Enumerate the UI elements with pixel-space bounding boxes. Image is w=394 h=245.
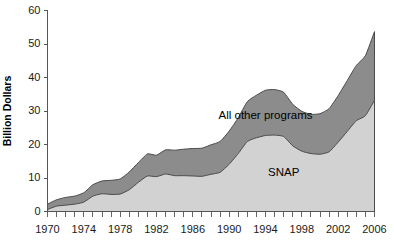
x-tick-label: 2002 xyxy=(326,223,350,235)
x-tick-label: 2006 xyxy=(362,223,386,235)
plot-areas xyxy=(48,32,375,212)
x-tick-label: 1998 xyxy=(290,223,314,235)
y-tick-label: 0 xyxy=(34,205,40,217)
x-tick-label: 1974 xyxy=(72,223,96,235)
y-tick-label: 10 xyxy=(28,171,40,183)
y-tick-label: 20 xyxy=(28,138,40,150)
x-tick-label: 1978 xyxy=(108,223,132,235)
series-label-all-other-programs: All other programs xyxy=(219,109,313,121)
y-tick-label: 40 xyxy=(28,71,40,83)
series-label-snap: SNAP xyxy=(268,166,300,178)
y-tick-label: 60 xyxy=(28,4,40,16)
y-axis-title: Billion Dollars xyxy=(1,76,13,147)
y-tick-label: 50 xyxy=(28,37,40,49)
x-tick-label: 1970 xyxy=(35,223,59,235)
stacked-area-chart: 0102030405060197019741978198219861990199… xyxy=(0,0,394,245)
x-tick-label: 1986 xyxy=(181,223,205,235)
chart-page: 0102030405060197019741978198219861990199… xyxy=(0,0,394,245)
x-tick-label: 1994 xyxy=(253,223,277,235)
y-tick-label: 30 xyxy=(28,104,40,116)
x-tick-label: 1990 xyxy=(217,223,241,235)
x-tick-label: 1982 xyxy=(144,223,168,235)
